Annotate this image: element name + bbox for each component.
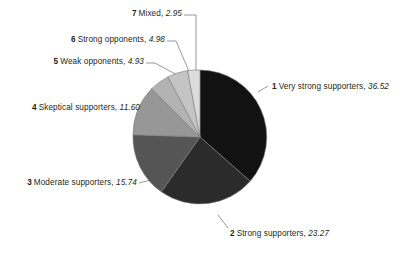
pie-label-2-value: 23.27: [308, 229, 329, 238]
pie-label-1-name: Very strong supporters: [279, 82, 364, 91]
pie-label-1: 1Very strong supporters, 36.52: [272, 83, 389, 91]
pie-label-5-value: 4.93: [128, 57, 144, 66]
pie-label-3-index: 3: [27, 178, 32, 187]
pie-label-7-value: 2.95: [166, 9, 182, 18]
pie-label-4-name: Skeptical supporters: [39, 103, 115, 112]
pie-label-3: 3Moderate supporters, 15.74: [0, 179, 137, 187]
pie-label-5: 5Weak opponents, 4.93: [0, 58, 144, 66]
pie-label-4: 4Skeptical supporters, 11.60: [0, 104, 140, 112]
pie-label-5-name: Weak opponents: [60, 57, 123, 66]
pie-label-1-value: 36.52: [368, 82, 389, 91]
pie-label-6: 6Strong opponents, 4.98: [0, 36, 165, 44]
pie-label-3-value: 15.74: [116, 178, 137, 187]
pie-label-4-value: 11.60: [120, 103, 140, 112]
pie-label-6-name: Strong opponents: [78, 35, 144, 44]
pie-label-2: 2Strong supporters, 23.27: [230, 230, 329, 238]
pie-label-2-index: 2: [230, 229, 235, 238]
pie-slices: [133, 70, 267, 204]
pie-label-6-index: 6: [71, 35, 76, 44]
leader-line-1: [258, 86, 268, 92]
pie-label-7: 7Mixed, 2.95: [0, 10, 182, 18]
pie-label-7-name: Mixed: [139, 9, 161, 18]
pie-label-7-index: 7: [132, 9, 137, 18]
leader-line-2: [218, 215, 228, 228]
pie-label-1-index: 1: [272, 82, 277, 91]
leader-line-6: [167, 41, 190, 73]
pie-label-5-index: 5: [54, 57, 59, 66]
pie-label-2-name: Strong supporters: [237, 229, 304, 238]
pie-label-3-name: Moderate supporters: [34, 178, 111, 187]
chart-canvas: 7Mixed, 2.95 6Strong opponents, 4.98 5We…: [0, 0, 418, 257]
pie-label-4-index: 4: [32, 103, 37, 112]
pie-label-6-value: 4.98: [149, 35, 165, 44]
